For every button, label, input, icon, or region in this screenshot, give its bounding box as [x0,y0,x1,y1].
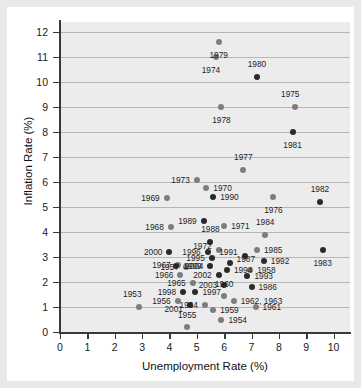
point-label-1959: 1959 [220,305,238,313]
data-point-1978 [218,104,224,110]
point-label-1991: 1991 [219,248,237,256]
data-point-1955 [184,324,190,330]
x-tick-label-4: 4 [154,342,184,353]
x-tick-label-9: 9 [291,342,321,353]
data-point-2002 [216,272,222,278]
y-tick-11 [53,57,60,58]
point-label-1962-1963: 1962, 1963 [241,297,283,305]
y-tick-2 [53,282,60,283]
data-point-1971 [221,223,227,229]
point-label-1983: 1983 [313,259,331,267]
point-label-1984: 1984 [256,217,274,225]
point-label-1994: 1994 [234,265,252,273]
gridline-y-3 [60,257,350,258]
x-tick-8 [279,332,280,339]
data-point-1998 [180,289,186,295]
point-label-1998: 1998 [158,288,176,296]
data-point-1979 [216,39,222,45]
x-tick-4 [169,332,170,339]
data-point-1981 [290,129,296,135]
gridline-y-9 [60,107,350,108]
data-point-1973 [194,177,200,183]
data-point-1986 [249,284,255,290]
gridline-y-8 [60,132,350,133]
data-point-1997 [192,289,198,295]
y-tick-label-12: 12 [8,27,48,38]
point-label-1975: 1975 [281,90,299,98]
point-label-1953: 1953 [123,290,141,298]
y-tick-1 [53,307,60,308]
data-point-1980 [254,74,260,80]
x-tick-label-5: 5 [182,342,212,353]
point-label-1954: 1954 [228,315,246,323]
x-tick-9 [306,332,307,339]
data-point-1966 [177,272,183,278]
data-point-1965 [190,280,196,286]
x-tick-2 [115,332,116,339]
data-point-1953 [136,304,142,310]
point-label-1992: 1992 [271,257,289,265]
gridline-y-10 [60,82,350,83]
y-tick-label-2: 2 [8,277,48,288]
x-tick-label-2: 2 [100,342,130,353]
x-tick-0 [60,332,61,339]
y-tick-3 [53,257,60,258]
data-point-1976 [270,194,276,200]
point-label-1971: 1971 [231,222,249,230]
point-label-2003: 2003 [199,280,217,288]
data-point-1962-1963 [231,298,237,304]
gridline-y-11 [60,57,350,58]
y-tick-0 [53,332,60,333]
data-point-1985 [254,247,260,253]
point-label-1985: 1985 [264,245,282,253]
data-point-2004 [207,263,213,269]
x-tick-10 [334,332,335,339]
data-point-1968 [168,224,174,230]
point-label-1973: 1973 [171,175,189,183]
y-axis-line [59,20,61,334]
y-tick-10 [53,82,60,83]
point-label-1990: 1990 [220,193,238,201]
data-point-1964 [202,302,208,308]
data-point-1954 [218,317,224,323]
data-point-1977 [240,167,246,173]
data-point-1975 [292,104,298,110]
x-tick-label-6: 6 [209,342,239,353]
data-point-1970 [203,185,209,191]
point-label-1968: 1968 [145,223,163,231]
y-tick-6 [53,182,60,183]
phillips-curve-figure: 0123456789101112 012345678910 1953195419… [0,0,361,388]
x-tick-label-0: 0 [45,342,75,353]
data-point-1992 [261,258,267,264]
x-tick-label-3: 3 [127,342,157,353]
point-label-1966: 1966 [155,270,173,278]
x-axis-title: Unemployment Rate (%) [60,360,350,372]
y-tick-label-1: 1 [8,302,48,313]
y-tick-5 [53,207,60,208]
point-label-2004: 2004 [185,262,203,270]
data-point-1983 [320,247,326,253]
data-point-1982 [317,199,323,205]
point-label-1996: 1996 [182,248,200,256]
x-tick-3 [142,332,143,339]
x-tick-6 [224,332,225,339]
y-tick-8 [53,132,60,133]
data-point-1960 [221,293,227,299]
point-label-1989: 1989 [178,217,196,225]
x-tick-label-8: 8 [264,342,294,353]
point-label-1979: 1979 [209,51,227,59]
data-point-1990 [210,194,216,200]
gridline-y-7 [60,157,350,158]
x-tick-7 [252,332,253,339]
point-label-1981: 1981 [283,141,301,149]
data-point-1994 [224,267,230,273]
x-tick-5 [197,332,198,339]
point-label-1986: 1986 [259,283,277,291]
point-label-1982: 1982 [311,185,329,193]
y-axis-title: Inflation Rate (%) [22,61,34,261]
y-tick-label-0: 0 [8,327,48,338]
point-label-1987: 1987 [237,255,255,263]
y-tick-7 [53,157,60,158]
point-label-1977: 1977 [234,152,252,160]
point-label-1993: 1993 [254,272,272,280]
